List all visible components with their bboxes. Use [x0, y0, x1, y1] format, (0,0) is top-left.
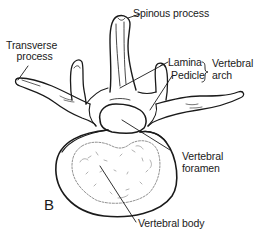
label-vertebral-foramen-line2: foramen — [182, 163, 223, 174]
right-superior-articular-process — [155, 63, 167, 100]
label-transverse-process: Transverse process — [6, 40, 57, 62]
label-lamina: Lamina — [168, 57, 202, 68]
vertebra-diagram: Spinous process Transverse process Lamin… — [0, 0, 264, 236]
right-transverse-process — [148, 92, 244, 126]
label-vertebral-arch: Vertebral arch — [212, 58, 253, 81]
spinous-process — [110, 15, 136, 92]
vertebral-foramen-outline — [100, 104, 146, 133]
label-transverse-process-line2: process — [6, 51, 57, 62]
left-superior-articular-process — [71, 60, 87, 104]
label-vertebral-foramen-line1: Vertebral — [182, 151, 223, 162]
panel-letter: B — [44, 196, 54, 213]
leader-lamina — [120, 62, 168, 88]
leader-body — [100, 166, 136, 222]
label-vertebral-body: Vertebral body — [138, 218, 204, 229]
label-pedicle: Pedicle — [171, 70, 205, 81]
cancellous-bone-region — [72, 141, 160, 204]
label-spinous-process: Spinous process — [133, 8, 209, 19]
label-vertebral-foramen: Vertebral foramen — [182, 151, 223, 174]
lamina-outline — [86, 88, 156, 104]
label-vertebral-arch-line1: Vertebral — [212, 58, 253, 69]
vertebra-illustration — [0, 0, 264, 236]
label-vertebral-arch-line2: arch — [212, 70, 253, 81]
